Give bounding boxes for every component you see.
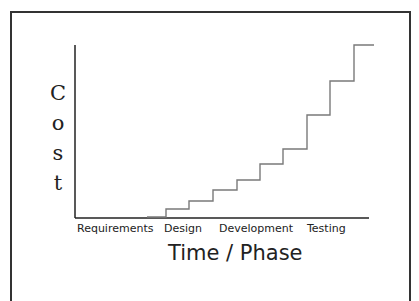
x-tick-testing: Testing xyxy=(307,222,346,235)
x-tick-development: Development xyxy=(219,222,293,235)
cost-step-line xyxy=(147,45,374,217)
y-axis-label-letter: t xyxy=(48,168,68,198)
y-axis-label-letter: C xyxy=(48,78,68,108)
x-axis-label: Time / Phase xyxy=(168,241,303,265)
x-tick-requirements: Requirements xyxy=(77,222,153,235)
y-axis-label-letter: o xyxy=(48,108,68,138)
y-axis-label-letter: s xyxy=(48,138,68,168)
y-axis-label: C o s t xyxy=(48,78,68,198)
x-tick-design: Design xyxy=(164,222,202,235)
